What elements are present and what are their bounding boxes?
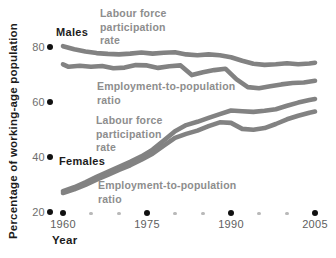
x-tick-dot-2005	[312, 210, 318, 216]
x-tick-label-1990: 1990	[214, 218, 248, 230]
curve-1	[63, 46, 315, 65]
female-emp-annotation: Employment-to-population ratio	[98, 179, 236, 206]
female-lfpr-annotation: Labour force participation rate	[96, 114, 163, 155]
x-minor-tick-dot-1970	[117, 212, 121, 216]
x-tick-dot-1990	[228, 210, 234, 216]
x-minor-tick-dot-1985	[201, 212, 205, 216]
males-series-label: Males	[56, 26, 88, 38]
male-emp-annotation: Employment-to-population ratio	[97, 80, 235, 107]
figure: Percentage of working-age population 806…	[0, 0, 336, 258]
x-minor-tick-dot-1995	[257, 212, 261, 216]
male-lfpr-annotation: Labour force participation rate	[100, 7, 167, 48]
y-tick-label-80: 80	[25, 41, 45, 53]
x-tick-label-1975: 1975	[130, 218, 164, 230]
x-minor-tick-dot-2000	[285, 212, 289, 216]
x-tick-label-2005: 2005	[298, 218, 332, 230]
females-series-label: Females	[59, 155, 105, 167]
y-tick-dot-20	[47, 209, 53, 215]
y-tick-label-60: 60	[25, 96, 45, 108]
x-axis-title: Year	[52, 234, 78, 246]
x-tick-dot-1960	[60, 210, 66, 216]
y-tick-dot-80	[47, 44, 53, 50]
y-tick-dot-60	[47, 99, 53, 105]
x-minor-tick-dot-1980	[173, 212, 177, 216]
y-tick-label-20: 20	[25, 206, 45, 218]
y-tick-label-40: 40	[25, 151, 45, 163]
y-tick-dot-40	[47, 154, 53, 160]
x-minor-tick-dot-1965	[89, 212, 93, 216]
x-tick-label-1960: 1960	[46, 218, 80, 230]
x-tick-dot-1975	[144, 210, 150, 216]
